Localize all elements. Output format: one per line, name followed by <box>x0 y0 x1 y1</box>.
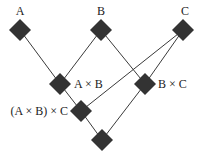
edge-C-to-BxC <box>145 30 183 84</box>
edge-B-to-AxB <box>60 30 101 84</box>
edge-B-to-BxC <box>101 30 145 84</box>
edge-BxC-to-bottom <box>102 84 145 140</box>
product-lattice-diagram: ABCA × BB × C(A × B) × C <box>0 0 208 160</box>
diamond-node-icon <box>9 19 31 41</box>
diamond-node-icon <box>91 129 113 151</box>
diamond-node-icon <box>172 19 194 41</box>
diamond-node-icon <box>134 73 156 95</box>
edge-C-to-AxBxC <box>81 30 183 111</box>
diamond-node-icon <box>70 100 92 122</box>
node-label-AxB: A × B <box>74 77 103 91</box>
diamond-node-icon <box>90 19 112 41</box>
node-label-AxBxC: (A × B) × C <box>10 104 68 118</box>
node-label-B: B <box>97 4 105 18</box>
diamond-node-icon <box>49 73 71 95</box>
node-label-BxC: B × C <box>158 77 187 91</box>
node-label-C: C <box>181 4 189 18</box>
node-label-A: A <box>16 4 25 18</box>
edge-A-to-AxB <box>20 30 60 84</box>
